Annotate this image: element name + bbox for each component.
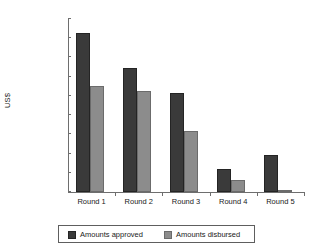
x-axis-label: Round 4: [210, 197, 257, 206]
plot-area: 180,000,000160,000,000140,000,000120,000…: [68, 19, 304, 192]
y-tick-mark: [68, 18, 71, 19]
y-tick-mark: [68, 37, 71, 38]
x-tick-mark: [115, 192, 116, 196]
legend-item-amounts-approved: Amounts approved: [68, 229, 143, 240]
bar-approved: [170, 93, 184, 192]
y-tick-mark: [68, 172, 71, 173]
bar-disbursed: [184, 131, 198, 192]
bar-chart-figure: US$ 180,000,000160,000,000140,000,000120…: [0, 0, 309, 249]
legend-swatch-icon-approved: [68, 231, 76, 239]
chart-legend: Amounts approved Amounts disbursed: [58, 225, 255, 243]
y-tick-mark: [68, 153, 71, 154]
legend-item-amounts-disbursed: Amounts disbursed: [164, 229, 240, 240]
bar-disbursed: [137, 91, 151, 192]
legend-label-disbursed: Amounts disbursed: [176, 229, 240, 240]
y-tick-mark: [68, 133, 71, 134]
y-axis-title: US$: [3, 81, 12, 121]
x-axis-line: [68, 192, 304, 193]
bar-disbursed: [90, 86, 104, 192]
x-axis-label: Round 1: [68, 197, 115, 206]
y-tick-mark: [68, 114, 71, 115]
x-tick-mark: [257, 192, 258, 196]
bar-approved: [76, 33, 90, 192]
x-axis-label: Round 5: [257, 197, 304, 206]
y-tick-mark: [68, 191, 71, 192]
bar-approved: [123, 68, 137, 192]
y-tick-mark: [68, 95, 71, 96]
legend-swatch-icon-disbursed: [164, 231, 172, 239]
y-tick-mark: [68, 76, 71, 77]
bar-approved: [264, 155, 278, 192]
bar-disbursed: [278, 190, 292, 192]
x-axis-label: Round 3: [162, 197, 209, 206]
bar-disbursed: [231, 180, 245, 192]
x-tick-mark: [304, 192, 305, 196]
x-axis-label: Round 2: [115, 197, 162, 206]
x-tick-mark: [162, 192, 163, 196]
x-tick-mark: [210, 192, 211, 196]
chart-title-remnant: [0, 0, 309, 1]
bar-approved: [217, 169, 231, 192]
y-tick-mark: [68, 56, 71, 57]
legend-label-approved: Amounts approved: [80, 229, 143, 240]
